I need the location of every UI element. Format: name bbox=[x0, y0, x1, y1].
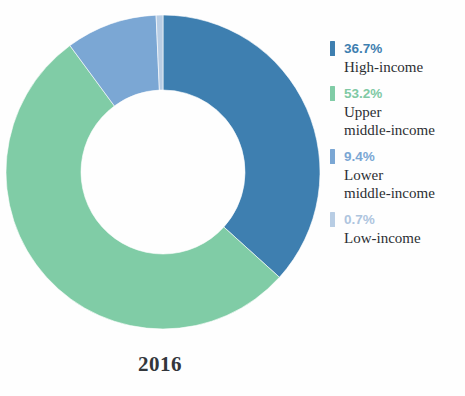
legend-swatch-icon-lower-middle-income bbox=[330, 149, 335, 164]
legend-item-lower-middle-income[interactable]: 9.4% Lower middle-income bbox=[330, 148, 465, 202]
legend-pct-row: 0.7% bbox=[330, 211, 465, 228]
legend-pct-row: 53.2% bbox=[330, 85, 465, 102]
legend-percent-upper-middle-income: 53.2% bbox=[344, 86, 382, 101]
donut-chart bbox=[0, 0, 320, 340]
legend-label-upper-middle-income: Upper middle-income bbox=[344, 103, 465, 139]
donut-chart-svg bbox=[0, 0, 320, 340]
donut-segment-group bbox=[6, 15, 320, 329]
legend-swatch-icon-low-income bbox=[330, 212, 335, 227]
legend-item-upper-middle-income[interactable]: 53.2% Upper middle-income bbox=[330, 85, 465, 139]
legend-percent-high-income: 36.7% bbox=[344, 41, 382, 56]
chart-year-caption: 2016 bbox=[0, 352, 320, 377]
legend-label-low-income: Low-income bbox=[344, 229, 465, 247]
legend-label-high-income: High-income bbox=[344, 58, 465, 76]
legend-percent-lower-middle-income: 9.4% bbox=[344, 149, 375, 164]
legend-pct-row: 9.4% bbox=[330, 148, 465, 165]
legend-item-low-income[interactable]: 0.7% Low-income bbox=[330, 211, 465, 247]
chart-legend: 36.7% High-income 53.2% Upper middle-inc… bbox=[330, 40, 465, 256]
legend-swatch-icon-upper-middle-income bbox=[330, 86, 335, 101]
legend-percent-low-income: 0.7% bbox=[344, 212, 375, 227]
donut-segment-high-income[interactable] bbox=[163, 15, 320, 277]
legend-pct-row: 36.7% bbox=[330, 40, 465, 57]
chart-page: 2016 36.7% High-income 53.2% Upper middl… bbox=[0, 0, 465, 396]
legend-swatch-icon-high-income bbox=[330, 41, 335, 56]
legend-label-lower-middle-income: Lower middle-income bbox=[344, 166, 465, 202]
legend-item-high-income[interactable]: 36.7% High-income bbox=[330, 40, 465, 76]
